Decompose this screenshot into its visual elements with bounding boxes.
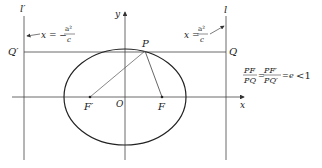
svg-text:PF′: PF′ <box>263 66 277 75</box>
label-l-prime: l′ <box>20 3 26 14</box>
focus-f-point <box>161 96 164 99</box>
label-f: F <box>157 101 166 112</box>
label-l: l <box>224 4 227 15</box>
label-x-axis: x <box>240 100 245 110</box>
svg-text:PF: PF <box>243 66 255 75</box>
ellipse-directrix-diagram: l′ l y x O Q′ Q P F′ F x = − a² c x = a²… <box>0 0 322 168</box>
svg-text:x = −: x = − <box>41 30 67 40</box>
right-eq-arrow <box>210 26 224 34</box>
left-eq-arrow <box>27 34 40 36</box>
label-y-axis: y <box>114 9 121 19</box>
label-q: Q <box>229 46 237 57</box>
label-q-prime: Q′ <box>8 46 19 57</box>
svg-text:a²: a² <box>198 25 205 33</box>
svg-text:=: = <box>282 71 289 80</box>
label-origin: O <box>116 99 124 109</box>
eccentricity-relation: PF PQ = PF′ PQ′ = e <1 <box>243 66 311 85</box>
svg-text:c: c <box>67 36 71 44</box>
svg-text:PQ′: PQ′ <box>263 76 278 85</box>
segment-pf-prime <box>90 51 145 97</box>
right-directrix-equation: x = a² c <box>184 25 208 44</box>
svg-text:<1: <1 <box>296 70 311 81</box>
left-directrix-equation: x = − a² c <box>41 25 75 44</box>
label-f-prime: F′ <box>83 101 94 112</box>
svg-text:c: c <box>200 36 204 44</box>
label-p: P <box>141 38 149 49</box>
svg-text:e: e <box>289 71 294 80</box>
svg-text:PQ: PQ <box>243 76 256 85</box>
focus-f-prime-point <box>89 96 92 99</box>
svg-text:a²: a² <box>65 25 72 33</box>
